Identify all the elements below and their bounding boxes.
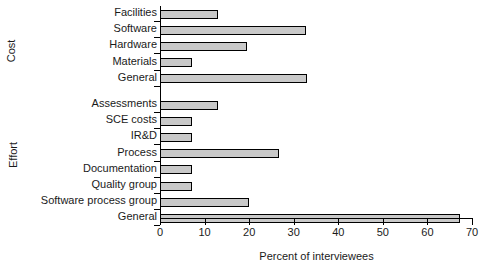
value-axis-label: 20 [243, 226, 255, 238]
value-axis-label: 50 [377, 226, 389, 238]
bar [160, 149, 279, 158]
category-axis-label: Quality group [92, 178, 157, 190]
category-axis-label: Process [117, 146, 157, 158]
bar [160, 74, 307, 83]
category-tick [154, 128, 160, 129]
category-axis-label: Materials [112, 55, 157, 67]
category-axis-label: IR&D [131, 129, 157, 141]
category-tick [154, 53, 160, 54]
category-axis-label: Hardware [109, 38, 157, 50]
bar [160, 165, 192, 174]
category-axis-label: Documentation [83, 162, 157, 174]
category-axis-labels: FacilitiesSoftwareHardwareMaterialsGener… [0, 0, 157, 220]
value-axis-ticks: 010203040506070 [160, 219, 473, 243]
x-axis-title: Percent of interviewees [160, 250, 473, 262]
category-axis-label: Assessments [92, 97, 157, 109]
category-tick [154, 112, 160, 113]
category-tick [154, 21, 160, 22]
bar [160, 133, 192, 142]
category-axis-label: General [118, 210, 157, 222]
value-tick [249, 219, 250, 225]
bar [160, 182, 192, 191]
category-tick [154, 144, 160, 145]
bar-chart: Cost Effort FacilitiesSoftwareHardwareMa… [0, 0, 487, 278]
category-axis-label: General [118, 71, 157, 83]
category-axis-label: Software process group [41, 194, 157, 206]
bar [160, 42, 247, 51]
bar [160, 198, 249, 207]
value-tick [294, 219, 295, 225]
value-tick [427, 219, 428, 225]
value-axis-label: 60 [421, 226, 433, 238]
category-axis-label: Software [114, 22, 157, 34]
value-tick [160, 219, 161, 225]
category-tick [154, 70, 160, 71]
value-tick [205, 219, 206, 225]
category-tick [154, 209, 160, 210]
category-tick [154, 161, 160, 162]
category-tick [154, 193, 160, 194]
value-tick [472, 219, 473, 225]
bar [160, 58, 192, 67]
category-tick [154, 37, 160, 38]
value-tick [338, 219, 339, 225]
value-axis-label: 30 [288, 226, 300, 238]
category-tick [154, 86, 160, 87]
bar [160, 26, 306, 35]
value-axis-label: 0 [157, 226, 163, 238]
bar [160, 117, 192, 126]
bar [160, 101, 218, 110]
category-axis-label: Facilities [114, 6, 157, 18]
value-axis-label: 40 [332, 226, 344, 238]
category-axis-label: SCE costs [106, 113, 157, 125]
value-axis-label: 10 [198, 226, 210, 238]
plot-area [160, 6, 472, 218]
bar [160, 10, 218, 19]
category-tick [154, 177, 160, 178]
value-tick [383, 219, 384, 225]
value-axis-label: 70 [466, 226, 478, 238]
